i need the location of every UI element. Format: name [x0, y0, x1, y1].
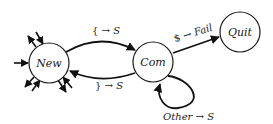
edge-label-com-to-new: } → S — [95, 80, 123, 91]
state-new-label: New — [35, 57, 62, 70]
state-com: Com — [133, 42, 173, 82]
edge-new-to-com — [66, 41, 135, 52]
state-quit: Quit — [220, 12, 260, 52]
edge-com-to-new — [70, 71, 135, 79]
state-com-label: Com — [140, 56, 165, 69]
edge-com-self-loop — [159, 76, 194, 108]
edge-label-com-self-loop: Other → S — [163, 111, 214, 122]
stub-arrow-bottomright-in — [63, 77, 72, 88]
state-new: New — [29, 43, 69, 83]
stub-arrow-bottomleft-in — [32, 80, 40, 91]
stub-arrow-topleft-out — [28, 36, 36, 47]
state-diagram: { → S } → S $ → Fail Other → S New Com Q… — [0, 0, 273, 124]
stub-arrow-bottomleft-out — [25, 77, 34, 87]
state-quit-label: Quit — [228, 26, 253, 39]
stub-arrow-bottomright-out — [58, 80, 66, 92]
stub-arrow-topleft-in — [36, 32, 43, 44]
edge-label-new-to-com: { → S — [92, 25, 120, 36]
